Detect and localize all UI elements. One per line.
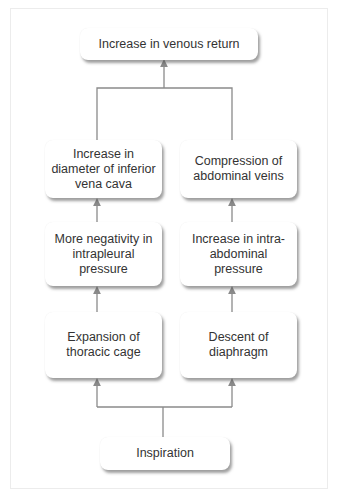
node-abdominal-vein-compression: Compression of abdominal veins xyxy=(180,140,297,198)
node-increase-venous-return: Increase in venous return xyxy=(80,28,258,60)
node-diaphragm-descent: Descent of diaphragm xyxy=(180,312,297,378)
node-label: Expansion of thoracic cage xyxy=(49,330,158,360)
node-label: Increase in venous return xyxy=(98,37,239,52)
node-intra-abdominal-pressure: Increase in intra-abdominal pressure xyxy=(180,222,297,286)
node-label: Descent of diaphragm xyxy=(184,330,293,360)
node-label: Increase in diameter of inferior vena ca… xyxy=(49,147,158,192)
node-ivc-diameter: Increase in diameter of inferior vena ca… xyxy=(45,140,162,198)
node-thoracic-expansion: Expansion of thoracic cage xyxy=(45,312,162,378)
node-intrapleural-negativity: More negativity in intrapleural pressure xyxy=(45,222,162,286)
node-label: More negativity in intrapleural pressure xyxy=(49,232,158,277)
node-label: Increase in intra-abdominal pressure xyxy=(184,232,293,277)
node-inspiration: Inspiration xyxy=(100,437,230,470)
node-label: Inspiration xyxy=(136,446,194,461)
node-label: Compression of abdominal veins xyxy=(184,154,293,184)
